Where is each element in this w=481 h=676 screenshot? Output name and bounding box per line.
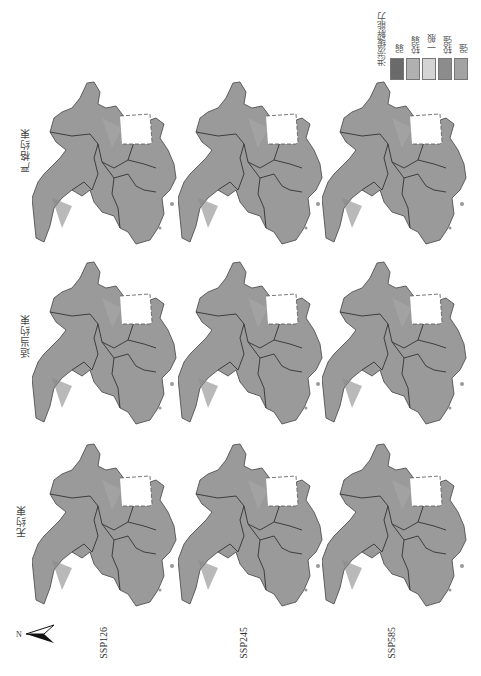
legend-label-fairly-weak: 较弱: [408, 36, 421, 54]
legend-label-strong: 强: [456, 44, 469, 53]
row-label-strict: 严格约束: [18, 128, 33, 172]
legend-swatch-moderate: [422, 58, 436, 80]
legend: 洪涝缓解能力 弱 较弱 一般 较强 强: [372, 6, 472, 80]
row-label-none: 无约束: [14, 505, 29, 538]
map-none-ssp126: [32, 440, 182, 610]
map-strict-ssp245: [178, 78, 328, 248]
legend-label-weak: 弱: [392, 44, 405, 53]
map-moderate-ssp245: [178, 258, 328, 428]
legend-swatch-fairly-strong: [438, 58, 452, 80]
col-label-ssp245: SSP245: [238, 627, 249, 659]
col-label-ssp126: SSP126: [98, 627, 109, 659]
legend-label-fairly-strong: 较强: [440, 36, 453, 54]
north-label: N: [16, 630, 22, 639]
map-strict-ssp585: [322, 78, 472, 248]
col-label-ssp585: SSP585: [386, 627, 397, 659]
north-arrow: N: [14, 622, 58, 646]
legend-label-moderate: 一般: [424, 34, 437, 52]
row-label-moderate: 适当约束: [18, 314, 33, 358]
map-none-ssp245: [178, 440, 328, 610]
legend-swatch-strong: [454, 58, 468, 80]
legend-title: 洪涝缓解能力: [374, 12, 387, 66]
map-strict-ssp126: [32, 78, 182, 248]
map-moderate-ssp585: [322, 258, 472, 428]
map-moderate-ssp126: [32, 258, 182, 428]
legend-swatch-fairly-weak: [406, 58, 420, 80]
map-none-ssp585: [322, 440, 472, 610]
legend-swatch-weak: [390, 58, 404, 80]
